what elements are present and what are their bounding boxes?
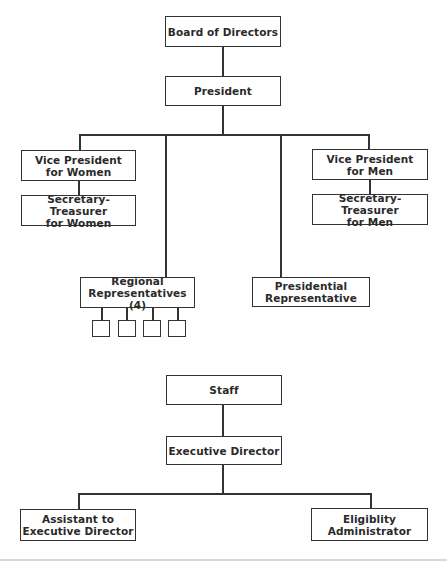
node-label: Presidential bbox=[275, 280, 347, 292]
connector-horizontal bbox=[79, 134, 370, 136]
connector-horizontal bbox=[78, 493, 371, 495]
connector bbox=[165, 134, 167, 277]
node-label: for Men bbox=[347, 165, 393, 177]
node-label: Representatives (4) bbox=[81, 287, 194, 311]
connector bbox=[222, 106, 224, 135]
node-assistant-to-executive-director: Assistant to Executive Director bbox=[20, 509, 136, 541]
node-label: for Men bbox=[347, 216, 393, 228]
connector bbox=[370, 493, 372, 508]
connector bbox=[152, 308, 154, 320]
connector bbox=[79, 134, 81, 150]
regional-rep-unit-4 bbox=[168, 320, 186, 337]
connector bbox=[280, 134, 282, 277]
node-eligibility-administrator: Eligiblity Administrator bbox=[311, 508, 428, 541]
node-label: Representative bbox=[265, 292, 357, 304]
node-vp-women: Vice President for Women bbox=[21, 150, 136, 181]
node-label: Administrator bbox=[328, 525, 412, 537]
regional-rep-unit-1 bbox=[92, 320, 110, 337]
node-presidential-representative: Presidential Representative bbox=[252, 277, 370, 307]
node-label: Secretary-Treasurer bbox=[313, 192, 427, 216]
node-label: Secretary-Treasurer bbox=[22, 193, 135, 217]
node-label: Assistant to bbox=[42, 513, 114, 525]
node-secretary-treasurer-men: Secretary-Treasurer for Men bbox=[312, 194, 428, 225]
footer-divider bbox=[0, 559, 447, 561]
node-label: Board of Directors bbox=[168, 26, 278, 38]
connector bbox=[126, 308, 128, 320]
node-board-of-directors: Board of Directors bbox=[165, 16, 281, 47]
regional-rep-unit-2 bbox=[118, 320, 136, 337]
node-regional-representatives: Regional Representatives (4) bbox=[80, 277, 195, 308]
connector bbox=[368, 134, 370, 149]
node-staff: Staff bbox=[166, 375, 282, 405]
connector bbox=[222, 47, 224, 76]
connector bbox=[222, 405, 224, 436]
node-label: Executive Director bbox=[168, 445, 279, 457]
node-label: President bbox=[194, 85, 252, 97]
node-executive-director: Executive Director bbox=[166, 436, 282, 465]
node-label: Vice President bbox=[327, 153, 414, 165]
connector bbox=[177, 308, 179, 320]
node-label: Regional bbox=[111, 275, 164, 287]
node-label: Eligiblity bbox=[343, 513, 396, 525]
regional-rep-unit-3 bbox=[143, 320, 161, 337]
node-label: for Women bbox=[46, 166, 111, 178]
connector bbox=[101, 308, 103, 320]
node-label: Staff bbox=[209, 384, 238, 396]
node-president: President bbox=[165, 76, 281, 106]
node-label: Vice President bbox=[35, 154, 122, 166]
node-label: for Women bbox=[46, 217, 111, 229]
connector bbox=[222, 465, 224, 494]
node-secretary-treasurer-women: Secretary-Treasurer for Women bbox=[21, 195, 136, 226]
node-label: Executive Director bbox=[22, 525, 133, 537]
node-vp-men: Vice President for Men bbox=[312, 149, 428, 180]
connector bbox=[78, 493, 80, 509]
